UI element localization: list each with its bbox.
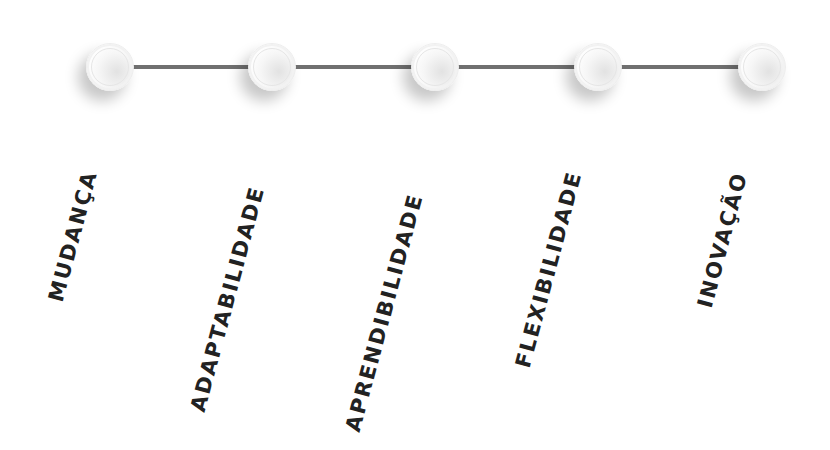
timeline-node-adaptabilidade: [248, 43, 296, 91]
timeline-label-adaptabilidade: ADAPTABILIDADE: [186, 183, 269, 414]
timeline-label-flexibilidade: FLEXIBILIDADE: [511, 168, 587, 370]
timeline-node-inovacao: [738, 43, 786, 91]
timeline-label-inovacao: INOVAÇÃO: [693, 169, 752, 310]
timeline-node-mudanca: [86, 43, 134, 91]
timeline-label-aprendibilidade: APRENDIBILIDADE: [341, 191, 428, 434]
timeline-node-flexibilidade: [574, 43, 622, 91]
timeline-node-aprendibilidade: [411, 43, 459, 91]
timeline-label-mudanca: MUDANÇA: [44, 168, 102, 304]
